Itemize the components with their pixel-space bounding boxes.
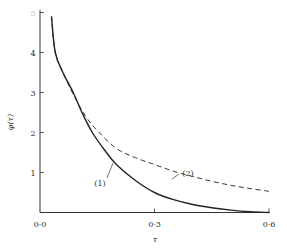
y-tick-label: 5 — [30, 9, 35, 18]
series — [51, 17, 269, 213]
x-tick-label: 0·0 — [34, 220, 47, 229]
series2-label: (2) — [182, 169, 193, 178]
x-tick-label: 0·6 — [263, 220, 276, 229]
y-ticks: 12345 — [30, 9, 44, 178]
x-axis-label: τ — [153, 235, 158, 244]
series1-leader-line — [107, 163, 113, 178]
y-tick-label: 2 — [30, 129, 35, 138]
series-2-line — [51, 17, 269, 192]
y-tick-label: 1 — [30, 169, 35, 178]
axes — [40, 10, 270, 213]
y-tick-label: 4 — [30, 49, 35, 58]
series2-leader-line — [172, 174, 179, 179]
x-tick-label: 0·3 — [148, 220, 161, 229]
series1-label: (1) — [94, 179, 105, 188]
y-axis-label: φ(τ) — [6, 114, 15, 130]
y-tick-label: 3 — [30, 89, 35, 98]
chart: 12345 0·00·30·6 φ(τ) τ (1) (2) — [0, 0, 287, 251]
